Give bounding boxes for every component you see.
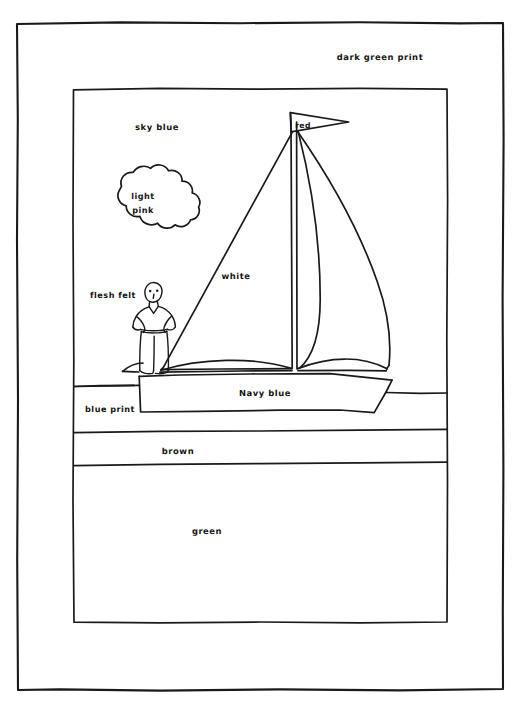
sand-strip-lines <box>74 429 447 465</box>
label-brown-sand: brown <box>162 446 194 456</box>
boom-curves <box>160 359 387 372</box>
label-light-pink-line1: light <box>131 191 154 201</box>
label-navy-blue-hull: Navy blue <box>239 388 291 398</box>
outer-border-frame <box>17 22 504 690</box>
shore-left-edge <box>74 385 139 386</box>
label-flesh-felt: flesh felt <box>90 290 136 300</box>
figure-eye-right <box>156 290 159 293</box>
label-blue-print-water: blue print <box>85 404 135 414</box>
label-green-grass: green <box>192 526 222 536</box>
mainsail <box>298 131 390 369</box>
inner-picture-frame <box>73 88 448 623</box>
label-light-pink-line2: pink <box>132 205 154 215</box>
pattern-page: dark green print sky blue light pink whi… <box>0 0 520 702</box>
label-sky-blue: sky blue <box>135 122 179 132</box>
figure-eye-left <box>149 290 152 293</box>
sailor-figure <box>133 283 176 374</box>
label-white-sails: white <box>221 271 250 281</box>
mast-and-flag <box>290 113 348 369</box>
jib-sail <box>161 132 293 370</box>
label-red-flag: red <box>295 121 311 130</box>
sailboat-pattern-drawing: dark green print sky blue light pink whi… <box>0 0 520 702</box>
cloud-shape <box>118 165 200 228</box>
label-dark-green-print: dark green print <box>337 52 423 62</box>
